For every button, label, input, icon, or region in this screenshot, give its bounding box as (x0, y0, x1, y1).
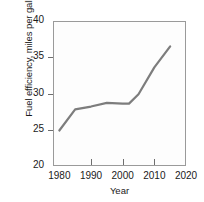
chart-figure: Fuel efficiency, miles per gallon 202530… (0, 0, 204, 202)
line-series-fuel-efficiency (59, 46, 170, 130)
x-axis-label: Year (53, 185, 186, 196)
data-series-layer (0, 0, 204, 202)
